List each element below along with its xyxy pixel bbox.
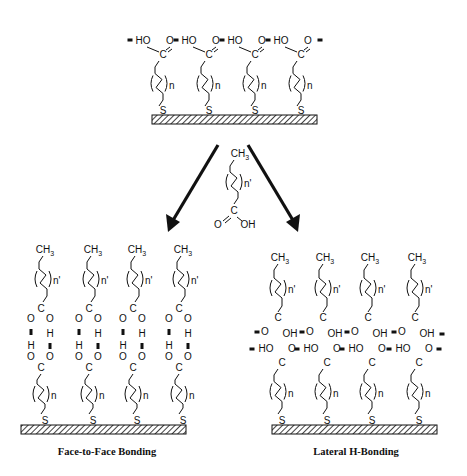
- alkyl-chain: n: [81, 374, 105, 414]
- hydrogen-bond-icon: [250, 348, 255, 351]
- alkyl-chain: n: [360, 369, 384, 414]
- bond: [193, 47, 205, 52]
- hydroxyl-o-label: O: [46, 313, 54, 324]
- hydrogen-bond-icon: [49, 343, 52, 349]
- h-label: H: [184, 328, 191, 339]
- repeat-count-label: n: [169, 80, 175, 91]
- bond: [131, 256, 139, 302]
- repeat-paren-right: [47, 386, 49, 402]
- arrow-left: [172, 145, 218, 222]
- bond: [274, 264, 282, 312]
- repeat-paren-right: [421, 384, 423, 400]
- bond: [87, 256, 95, 302]
- upper-o-label: O: [351, 326, 359, 337]
- lower-o-label: O: [119, 351, 127, 362]
- alkyl-chain: n': [315, 264, 341, 312]
- carbonyl-o-label: O: [304, 35, 312, 46]
- bond: [319, 264, 327, 312]
- bond: [175, 374, 183, 414]
- alkyl-chain: n': [83, 256, 109, 302]
- repeat-paren-right: [165, 76, 167, 92]
- lower-o-label: O: [165, 351, 173, 362]
- alkyl-chain: n: [289, 61, 313, 106]
- repeat-count-label: n': [145, 275, 153, 286]
- sam-chain: HOOCnS: [174, 35, 221, 116]
- lower-carbon-label: C: [368, 357, 375, 368]
- arrow-right-head-icon: [286, 214, 300, 232]
- h-label: H: [46, 328, 53, 339]
- lower-o-label: O: [378, 343, 386, 354]
- hydrogen-bond-icon: [30, 329, 33, 335]
- hydrogen-bond-icon: [318, 39, 323, 42]
- repeat-paren-right: [421, 280, 423, 296]
- alkyl-chain: n': [360, 264, 386, 312]
- repeat-paren-right: [185, 386, 187, 402]
- repeat-paren-left: [173, 271, 175, 287]
- dimer-chain: CH3n'COOHHOOCnS: [119, 244, 152, 426]
- repeat-count-label: n': [288, 284, 296, 295]
- upper-oh-label: OH: [373, 328, 388, 339]
- methyl-label: CH3: [231, 148, 249, 161]
- hydrogen-bond-icon: [97, 343, 100, 349]
- bond: [39, 256, 47, 302]
- lower-carbon-label: C: [175, 362, 182, 373]
- gold-substrate-left: [21, 425, 186, 434]
- repeat-count-label: n: [378, 388, 384, 399]
- hydrogen-bond-icon: [78, 329, 81, 335]
- repeat-paren-right: [303, 76, 305, 92]
- alkyl-chain: n: [151, 61, 175, 106]
- alkyl-chain: n': [407, 264, 433, 312]
- carbonyl-o-label: O: [75, 313, 83, 324]
- double-bond: [168, 49, 172, 52]
- bond: [411, 369, 419, 414]
- lower-carbon-label: C: [323, 357, 330, 368]
- repeat-paren-left: [125, 386, 127, 402]
- repeat-count-label: n': [53, 275, 61, 286]
- repeat-count-label: n: [99, 390, 105, 401]
- repeat-count-label: n': [425, 284, 433, 295]
- sam-chain: HOOCnS: [220, 35, 267, 116]
- repeat-paren-right: [284, 280, 286, 296]
- repeat-paren-left: [226, 174, 228, 190]
- hydroxyl-label: HO: [274, 35, 289, 46]
- carbon-label: C: [129, 303, 136, 314]
- methyl-label: CH3: [408, 252, 426, 265]
- hydrogen-bond-icon: [122, 329, 125, 335]
- carbon-label: C: [364, 312, 371, 323]
- repeat-paren-right: [240, 174, 242, 190]
- lower-o-label: O: [75, 351, 83, 362]
- sulfur-label: S: [134, 415, 141, 426]
- lateral-chain: CH3n'COOHHOOCnS: [250, 252, 298, 426]
- alkyl-chain: n: [171, 374, 195, 414]
- repeat-paren-left: [197, 76, 199, 92]
- repeat-count-label: n': [333, 284, 341, 295]
- gold-substrate-right: [272, 425, 437, 434]
- sulfur-label: S: [42, 415, 49, 426]
- alkyl-chain: n: [315, 369, 339, 414]
- alkyl-chain: n: [33, 374, 57, 414]
- repeat-count-label: n: [288, 388, 294, 399]
- alkyl-chain: n': [127, 256, 153, 302]
- lower-ho-label: HO: [259, 343, 274, 354]
- arrow-right: [248, 145, 294, 222]
- repeat-count-label: n: [333, 388, 339, 399]
- carbonyl-o-label: O: [212, 35, 220, 46]
- dimer-chain: CH3n'COOHHOOCnS: [165, 244, 198, 426]
- carbon-label: C: [37, 303, 44, 314]
- repeat-paren-left: [243, 76, 245, 92]
- repeat-paren-right: [141, 271, 143, 287]
- repeat-paren-left: [35, 271, 37, 287]
- repeat-paren-left: [171, 386, 173, 402]
- repeat-paren-right: [187, 271, 189, 287]
- bond: [147, 47, 159, 52]
- repeat-count-label: n: [215, 80, 221, 91]
- repeat-paren-right: [257, 76, 259, 92]
- carbon-label: C: [205, 49, 212, 60]
- h-label: H: [27, 340, 34, 351]
- lower-carbon-label: C: [37, 362, 44, 373]
- lower-ho-label: HO: [304, 343, 319, 354]
- h-label: H: [94, 328, 101, 339]
- repeat-paren-right: [374, 280, 376, 296]
- sulfur-label: S: [324, 415, 331, 426]
- bond: [85, 374, 93, 414]
